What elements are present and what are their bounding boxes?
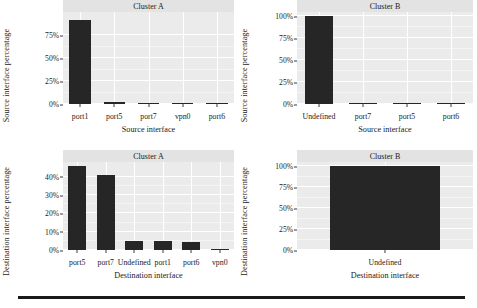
plot-panel-destination-cluster-b	[297, 162, 473, 250]
y-tick-label-30%: 30%	[45, 191, 59, 200]
vertical-gridline	[114, 12, 115, 104]
y-axis-title-destination-cluster-a: Destination interface percentage	[0, 150, 14, 292]
plot-region-source-cluster-a: Cluster Aport1port5port7vpn0port6Source …	[63, 0, 234, 134]
y-tick-label-100%: 100%	[275, 12, 293, 21]
x-tick-mark	[363, 104, 364, 107]
x-tick-label-port1: port1	[72, 112, 88, 121]
x-axis-ticks-source-cluster-a	[63, 104, 234, 112]
x-axis-title-destination-cluster-b: Destination interface	[297, 269, 473, 280]
x-tick-label-port1: port1	[155, 258, 171, 267]
bar-destination-cluster-a-Undefined	[125, 241, 143, 250]
x-tick-label-port5: port5	[106, 112, 122, 121]
vertical-gridline	[191, 162, 192, 250]
x-tick-mark	[162, 250, 163, 253]
vertical-gridline	[220, 162, 221, 250]
x-axis-tick-labels-destination-cluster-b: Undefined	[297, 258, 473, 269]
y-tick-label-25%: 25%	[279, 225, 293, 234]
y-tick-label-50%: 50%	[279, 56, 293, 65]
x-tick-mark	[407, 104, 408, 107]
bar-destination-cluster-a-port5	[68, 166, 86, 250]
x-tick-mark	[385, 250, 386, 253]
y-axis-tick-labels-destination-cluster-b: 0%25%50%75%100%	[257, 150, 297, 292]
y-tick-label-75%: 75%	[45, 31, 59, 40]
y-axis-tick-labels-source-cluster-b: 0%25%50%75%100%	[257, 0, 297, 150]
y-tick-label-75%: 75%	[279, 34, 293, 43]
y-tick-label-100%: 100%	[275, 162, 293, 171]
x-axis-title-source-cluster-b: Source interface	[297, 123, 473, 134]
x-tick-label-port5: port5	[399, 112, 415, 121]
bar-source-cluster-b-Undefined	[305, 16, 332, 104]
facet-panel-destination-cluster-b: Destination interface percentageCluster …	[238, 150, 477, 292]
y-axis-title-text: Destination interface percentage	[241, 166, 250, 275]
x-tick-mark	[319, 104, 320, 107]
x-tick-label-Undefined: Undefined	[118, 258, 151, 267]
y-axis-tick-labels-source-cluster-a: 0%25%50%75%	[29, 0, 63, 150]
figure-grid: Source interface percentageCluster Aport…	[0, 0, 477, 292]
y-axis-title-destination-cluster-b: Destination interface percentage	[238, 150, 252, 292]
plot-panel-source-cluster-b	[297, 12, 473, 104]
x-tick-label-port7: port7	[98, 258, 114, 267]
x-tick-mark	[114, 104, 115, 107]
x-tick-label-port6: port6	[183, 258, 199, 267]
bottom-horizontal-rule	[18, 296, 465, 299]
x-tick-label-port7: port7	[140, 112, 156, 121]
x-axis-ticks-destination-cluster-a	[63, 250, 234, 258]
vertical-gridline	[363, 12, 364, 104]
y-tick-label-0%: 0%	[49, 246, 59, 255]
y-tick-label-50%: 50%	[279, 204, 293, 213]
x-tick-mark	[451, 104, 452, 107]
vertical-gridline	[149, 12, 150, 104]
plot-region-destination-cluster-a: Cluster Aport5port7Undefinedport1port6vp…	[63, 150, 234, 280]
y-axis-title-text: Source interface percentage	[3, 28, 12, 122]
vertical-gridline	[217, 12, 218, 104]
x-tick-mark	[191, 250, 192, 253]
y-axis-title-source-cluster-b: Source interface percentage	[238, 0, 252, 150]
x-tick-label-vpn0: vpn0	[175, 112, 191, 121]
x-tick-label-port6: port6	[209, 112, 225, 121]
x-tick-label-vpn0: vpn0	[212, 258, 228, 267]
facet-strip-label-source-cluster-a: Cluster A	[63, 0, 234, 12]
y-axis-tick-labels-destination-cluster-a: 0%10%20%30%40%	[29, 150, 63, 292]
facet-strip-label-destination-cluster-a: Cluster A	[63, 150, 234, 162]
y-tick-label-0%: 0%	[49, 100, 59, 109]
plot-panel-source-cluster-a	[63, 12, 234, 104]
facet-panel-source-cluster-a: Source interface percentageCluster Aport…	[0, 0, 238, 150]
x-tick-mark	[148, 104, 149, 107]
y-tick-label-75%: 75%	[279, 183, 293, 192]
facet-strip-label-source-cluster-b: Cluster B	[297, 0, 473, 12]
vertical-gridline	[134, 162, 135, 250]
bar-source-cluster-a-port1	[69, 20, 90, 104]
x-tick-mark	[182, 104, 183, 107]
x-tick-label-Undefined: Undefined	[369, 258, 402, 267]
bar-destination-cluster-b-Undefined	[330, 166, 439, 250]
y-axis-title-text: Source interface percentage	[241, 28, 250, 122]
x-tick-mark	[80, 104, 81, 107]
minor-gridline	[63, 185, 234, 186]
vertical-gridline	[183, 12, 184, 104]
y-tick-label-25%: 25%	[45, 77, 59, 86]
plot-region-destination-cluster-b: Cluster BUndefinedDestination interface	[297, 150, 473, 280]
major-gridline	[63, 194, 234, 195]
y-tick-label-25%: 25%	[279, 78, 293, 87]
plot-region-source-cluster-b: Cluster BUndefinedport7port5port6Source …	[297, 0, 473, 134]
x-tick-label-Undefined: Undefined	[303, 112, 336, 121]
major-gridline	[63, 176, 234, 177]
x-tick-mark	[134, 250, 135, 253]
x-tick-mark	[219, 250, 220, 253]
y-tick-label-0%: 0%	[283, 100, 293, 109]
bar-destination-cluster-a-port7	[97, 175, 115, 250]
x-axis-ticks-source-cluster-b	[297, 104, 473, 112]
facet-panel-destination-cluster-a: Destination interface percentageCluster …	[0, 150, 238, 292]
x-axis-title-source-cluster-a: Source interface	[63, 123, 234, 134]
x-tick-mark	[77, 250, 78, 253]
y-tick-label-20%: 20%	[45, 209, 59, 218]
major-gridline	[63, 231, 234, 232]
y-tick-label-10%: 10%	[45, 227, 59, 236]
facet-panel-source-cluster-b: Source interface percentageCluster BUnde…	[238, 0, 477, 150]
y-axis-title-source-cluster-a: Source interface percentage	[0, 0, 14, 150]
x-axis-title-destination-cluster-a: Destination interface	[63, 269, 234, 280]
major-gridline	[63, 212, 234, 213]
minor-gridline	[63, 240, 234, 241]
minor-gridline	[63, 203, 234, 204]
bar-destination-cluster-a-port6	[182, 242, 200, 250]
